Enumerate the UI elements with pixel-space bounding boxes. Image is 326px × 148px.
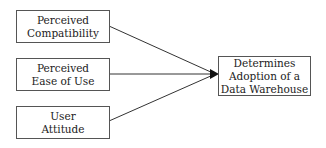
node-label-line: Perceived — [37, 62, 89, 75]
node-determines-adoption: Determines Adoption of a Data Warehouse — [218, 56, 311, 96]
node-label-line: Compatibility — [27, 27, 99, 40]
node-label-line: User — [50, 110, 75, 123]
node-user-attitude: User Attitude — [16, 106, 110, 139]
arrow-compatibility-to-adoption — [109, 26, 213, 73]
node-perceived-ease-of-use: Perceived Ease of Use — [16, 58, 110, 91]
node-label-line: Adoption of a — [229, 70, 300, 83]
node-label-line: Perceived — [37, 14, 89, 27]
node-perceived-compatibility: Perceived Compatibility — [16, 10, 110, 43]
node-label-line: Ease of Use — [32, 75, 95, 88]
node-label-line: Attitude — [41, 123, 84, 136]
node-label-line: Determines — [234, 57, 296, 70]
node-label-line: Data Warehouse — [221, 83, 308, 96]
arrow-attitude-to-adoption — [109, 75, 213, 121]
